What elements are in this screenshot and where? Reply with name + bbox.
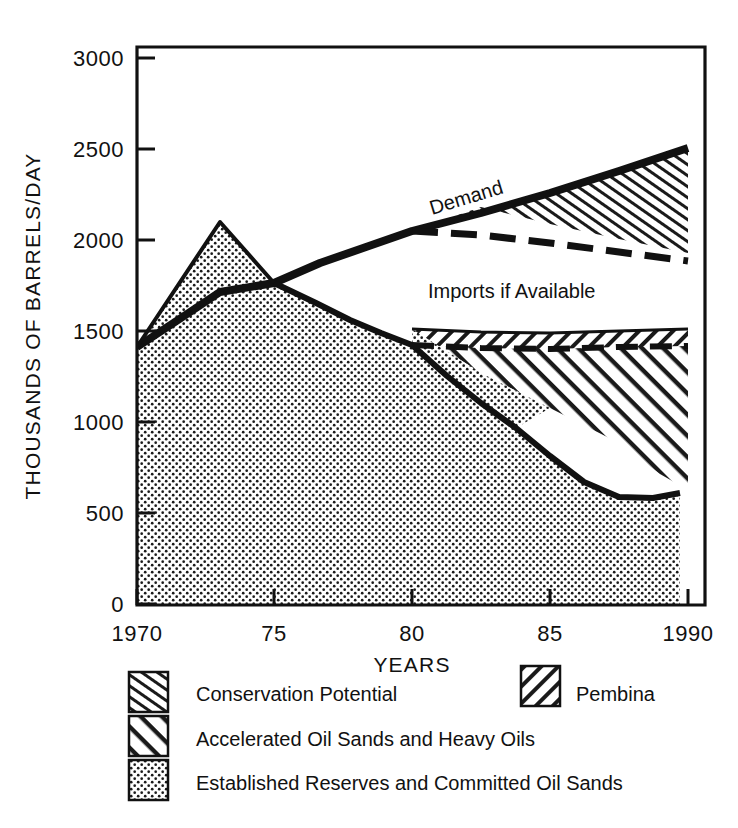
- y-tick-label-1500: 1500: [73, 319, 124, 344]
- y-tick-label-2500: 2500: [73, 137, 124, 162]
- legend-label-accelerated-oil-sands: Accelerated Oil Sands and Heavy Oils: [196, 728, 535, 750]
- x-tick-label-80: 80: [399, 621, 424, 646]
- legend-label-established-reserves: Established Reserves and Committed Oil S…: [196, 772, 623, 794]
- annotation-imports-if-available: Imports if Available: [428, 280, 596, 302]
- x-tick-label-1990: 1990: [663, 621, 714, 646]
- y-tick-label-0: 0: [111, 592, 124, 617]
- legend-swatch-conservation-potential: [129, 672, 168, 712]
- y-tick-label-1000: 1000: [73, 410, 124, 435]
- legend-label-conservation-potential: Conservation Potential: [196, 683, 397, 705]
- oil-supply-demand-chart: 3000 2500 2000 1500 1000 500 0 1970 75 8…: [0, 0, 738, 828]
- x-tick-label-1970: 1970: [112, 621, 163, 646]
- legend-swatch-established-reserves: [129, 760, 168, 800]
- legend-swatch-accelerated-oil-sands: [129, 716, 168, 756]
- y-tick-label-2000: 2000: [73, 228, 124, 253]
- y-tick-label-3000: 3000: [73, 46, 124, 71]
- legend-label-pembina: Pembina: [576, 683, 656, 705]
- figure-container: 3000 2500 2000 1500 1000 500 0 1970 75 8…: [0, 0, 738, 828]
- legend-swatch-pembina: [521, 666, 560, 706]
- y-axis-title: THOUSANDS OF BARRELS/DAY: [21, 153, 44, 500]
- x-tick-label-75: 75: [261, 621, 286, 646]
- x-axis-title: YEARS: [373, 653, 450, 676]
- y-tick-label-500: 500: [86, 501, 124, 526]
- x-tick-label-85: 85: [537, 621, 562, 646]
